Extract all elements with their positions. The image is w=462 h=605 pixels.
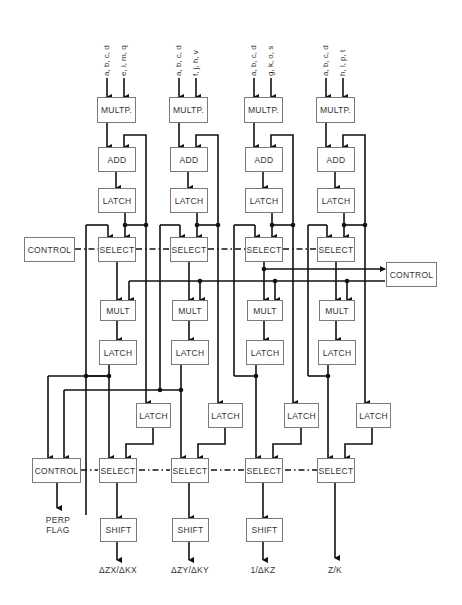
perp-flag-label-line1: PERP [43, 515, 73, 525]
latch-block-mid-2: LATCH [171, 340, 209, 365]
latch-block-low-3: LATCH [284, 403, 319, 428]
latch-block-low-4: LATCH [356, 403, 391, 428]
input-label-col4-b: h, l, p, t [338, 50, 347, 76]
perp-flag-label-line2: FLAG [43, 525, 73, 535]
output-label-z-k: Z/K [315, 565, 355, 575]
select-block-bottom-1: SELECT [99, 458, 137, 483]
shift-block-3: SHIFT [246, 518, 283, 542]
latch-block-mid-3: LATCH [246, 340, 284, 365]
mult-block-2: MULT [172, 300, 208, 321]
select-block-3: SELECT [245, 237, 283, 262]
add-block-2: ADD [170, 147, 208, 172]
mult-block-3: MULT [247, 300, 283, 321]
latch-block-3: LATCH [245, 188, 283, 213]
multp-block-1: MULTP. [97, 97, 136, 123]
add-block-4: ADD [317, 147, 355, 172]
multp-block-2: MULTP. [169, 97, 208, 123]
add-block-1: ADD [98, 147, 136, 172]
mult-block-4: MULT [319, 300, 355, 321]
select-block-bottom-3: SELECT [245, 458, 283, 483]
select-block-bottom-4: SELECT [317, 458, 355, 483]
latch-block-mid-1: LATCH [99, 340, 137, 365]
input-label-col2-a: a, b, c, d [174, 45, 183, 76]
latch-block-4: LATCH [317, 188, 355, 213]
latch-block-low-1: LATCH [136, 403, 171, 428]
select-block-1: SELECT [98, 237, 136, 262]
select-block-4: SELECT [317, 237, 355, 262]
control-block-right: CONTROL [386, 262, 437, 287]
output-label-dzy-dky: ΔZY/ΔKY [160, 565, 220, 575]
input-label-col2-b: f, j, h, v [191, 50, 200, 76]
add-block-3: ADD [245, 147, 283, 172]
input-label-col1-a: a, b, c, d [102, 45, 111, 76]
latch-block-1: LATCH [98, 188, 136, 213]
select-block-2: SELECT [170, 237, 208, 262]
select-block-bottom-2: SELECT [171, 458, 209, 483]
multp-block-3: MULTP. [244, 97, 283, 123]
output-label-dzx-dkx: ΔZX/ΔKX [88, 565, 148, 575]
output-label-1-dkz: 1/ΔKZ [238, 565, 288, 575]
latch-block-low-2: LATCH [208, 403, 243, 428]
shift-block-2: SHIFT [172, 518, 209, 542]
input-label-col1-b: e, i, m, q [119, 45, 128, 76]
shift-block-1: SHIFT [100, 518, 137, 542]
input-label-col3-a: a, b, c, d [249, 45, 258, 76]
control-block-left: CONTROL [24, 237, 75, 262]
latch-block-mid-4: LATCH [318, 340, 356, 365]
mult-block-1: MULT [100, 300, 136, 321]
input-label-col4-a: a, b, c, d [321, 45, 330, 76]
input-label-col3-b: g, k, o, s [266, 46, 275, 76]
control-block-bottom: CONTROL [32, 458, 81, 483]
multp-block-4: MULTP. [316, 97, 355, 123]
latch-block-2: LATCH [170, 188, 208, 213]
